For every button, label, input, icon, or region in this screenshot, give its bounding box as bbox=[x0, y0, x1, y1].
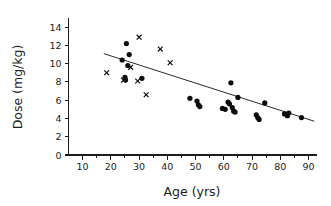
chart-axes bbox=[68, 18, 317, 156]
data-point-circle bbox=[257, 117, 262, 122]
y-tick-label: 10 bbox=[49, 58, 61, 69]
y-tick-label: 8 bbox=[55, 76, 61, 87]
data-point-circle bbox=[299, 115, 304, 120]
y-tick-label: 12 bbox=[49, 40, 61, 51]
data-point-circle bbox=[139, 76, 144, 81]
data-point-circle bbox=[262, 100, 267, 105]
y-tick-group: 02468101214 bbox=[49, 22, 68, 161]
y-tick-label: 14 bbox=[49, 22, 61, 33]
y-tick-label: 2 bbox=[55, 131, 61, 142]
y-axis-title: Dose (mg/kg) bbox=[10, 45, 25, 130]
data-point-circle bbox=[197, 104, 202, 109]
data-point-circle bbox=[228, 80, 233, 85]
x-tick-label: 20 bbox=[105, 161, 117, 172]
x-tick-group: 102030405060708090 bbox=[77, 155, 315, 172]
chart-canvas: 02468101214 102030405060708090 Age (yrs)… bbox=[0, 0, 331, 206]
data-point-circle bbox=[124, 41, 129, 46]
regression-trend-line bbox=[104, 54, 314, 122]
data-point-cross bbox=[144, 92, 149, 97]
data-point-circle bbox=[233, 109, 238, 114]
x-tick-label: 40 bbox=[161, 161, 173, 172]
y-tick-label: 4 bbox=[55, 113, 61, 124]
data-point-cross bbox=[135, 79, 140, 84]
data-point-circle bbox=[187, 96, 192, 101]
x-tick-label: 70 bbox=[246, 161, 258, 172]
data-point-circle bbox=[223, 107, 228, 112]
data-point-cross bbox=[104, 70, 109, 75]
y-tick-label: 6 bbox=[55, 95, 61, 106]
x-tick-label: 60 bbox=[218, 161, 230, 172]
x-axis-title: Age (yrs) bbox=[164, 184, 221, 199]
x-tick-label: 30 bbox=[133, 161, 145, 172]
data-point-cross bbox=[158, 47, 163, 52]
x-tick-label: 90 bbox=[302, 161, 314, 172]
x-tick-label: 50 bbox=[190, 161, 202, 172]
trend-line-group bbox=[104, 54, 314, 122]
y-tick-label: 0 bbox=[55, 150, 61, 161]
data-point-circle bbox=[127, 52, 132, 57]
data-point-cross bbox=[137, 35, 142, 40]
data-point-circle bbox=[286, 110, 291, 115]
x-tick-label: 10 bbox=[77, 161, 89, 172]
data-points-group bbox=[104, 35, 304, 122]
scatter-chart-figure: 02468101214 102030405060708090 Age (yrs)… bbox=[0, 0, 331, 206]
data-point-circle bbox=[120, 57, 125, 62]
data-point-cross bbox=[168, 60, 173, 65]
data-point-circle bbox=[235, 95, 240, 100]
x-tick-label: 80 bbox=[274, 161, 286, 172]
